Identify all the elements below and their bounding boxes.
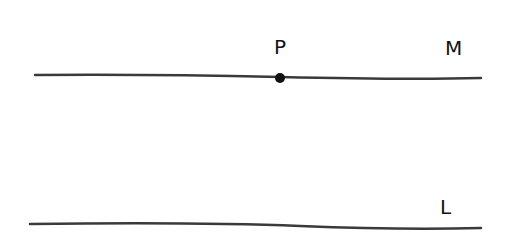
- parallel-lines-diagram: P M L: [0, 0, 509, 241]
- line-m: [35, 75, 481, 79]
- line-l: [30, 223, 481, 228]
- line-m-label: M: [445, 36, 462, 60]
- point-p-dot: [275, 73, 285, 83]
- line-l-label: L: [440, 195, 452, 219]
- point-p-label: P: [274, 35, 286, 59]
